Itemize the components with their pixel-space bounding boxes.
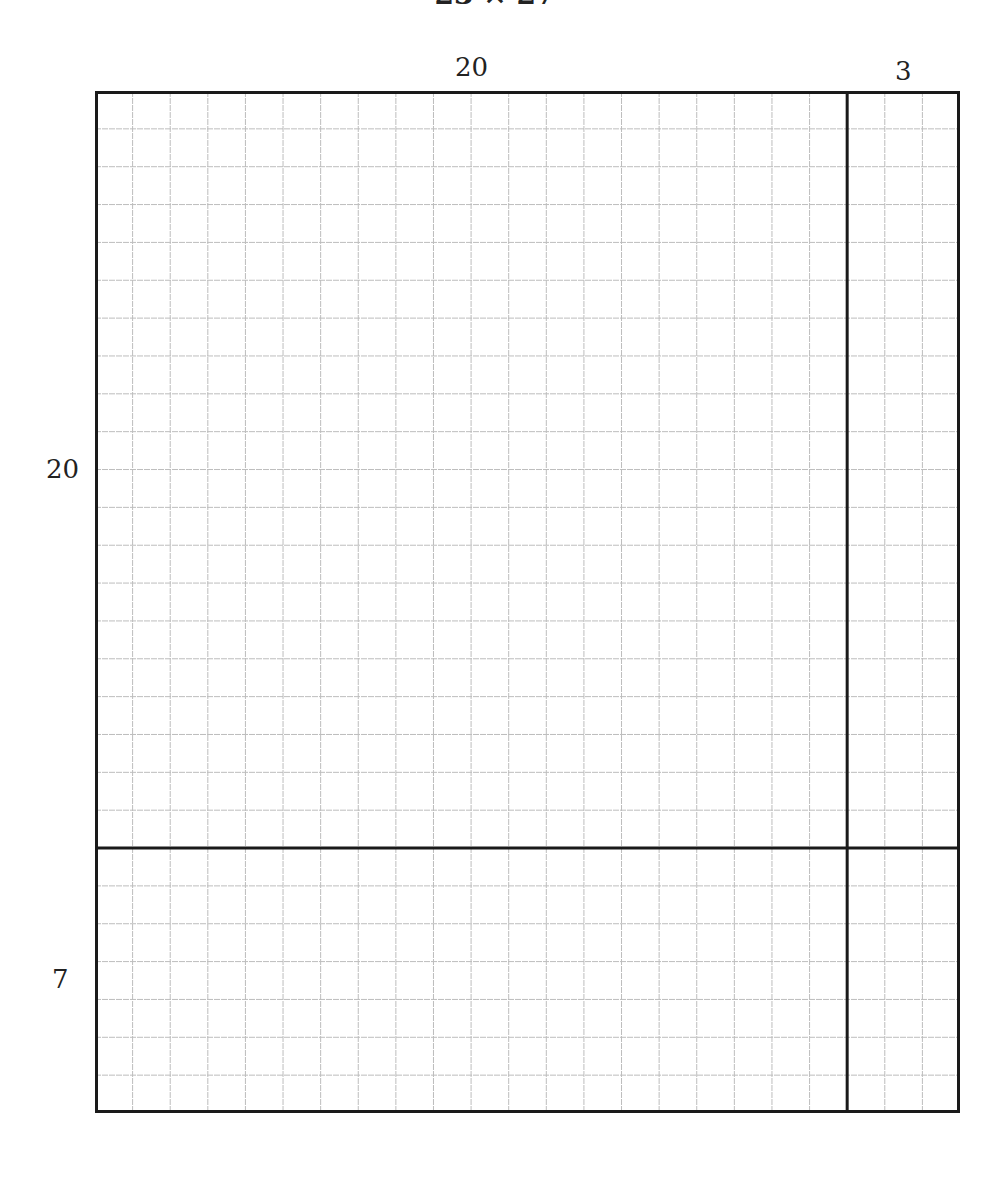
label-rows-20: 20 — [46, 454, 79, 484]
label-columns-20: 20 — [455, 52, 488, 82]
grid-canvas — [95, 91, 960, 1113]
label-columns-3: 3 — [895, 56, 912, 86]
grid-outer-border — [97, 93, 959, 1112]
area-model-caption: 23 × 27 — [0, 0, 990, 11]
label-rows-7: 7 — [52, 964, 69, 994]
area-model-grid — [95, 91, 960, 1113]
